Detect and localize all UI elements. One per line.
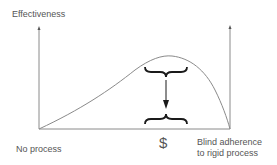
- lower-brace: [145, 114, 187, 124]
- effectiveness-diagram: Effectiveness No process Blind adherence…: [0, 0, 277, 165]
- x-axis-left-label: No process: [16, 144, 62, 155]
- effectiveness-curve: [39, 56, 230, 129]
- cost-symbol: $: [159, 134, 167, 151]
- right-boundary-arrowhead: [229, 25, 232, 29]
- x-axis-right-label: Blind adherence to rigid process: [197, 137, 262, 159]
- x-axis-right-label-line1: Blind adherence: [197, 137, 262, 148]
- x-axis-right-label-line2: to rigid process: [197, 148, 262, 159]
- y-axis-label: Effectiveness: [12, 9, 65, 20]
- y-axis-arrowhead: [38, 26, 41, 30]
- upper-brace: [145, 67, 187, 77]
- down-arrow-head: [163, 100, 169, 109]
